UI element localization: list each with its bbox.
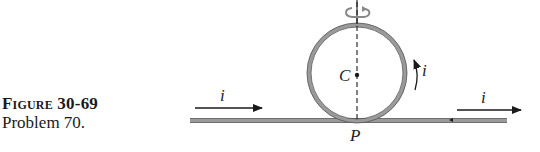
current-left-label: i xyxy=(220,86,225,105)
wire-loop-diagram: C P i i i xyxy=(0,0,540,152)
center-label: C xyxy=(339,66,351,85)
center-point xyxy=(355,73,359,77)
current-right-label: i xyxy=(481,88,486,107)
rotation-arrow-icon xyxy=(346,6,369,17)
point-label: P xyxy=(349,126,360,145)
loop-current-arrow-icon xyxy=(414,60,417,90)
current-loop-label: i xyxy=(422,61,427,80)
